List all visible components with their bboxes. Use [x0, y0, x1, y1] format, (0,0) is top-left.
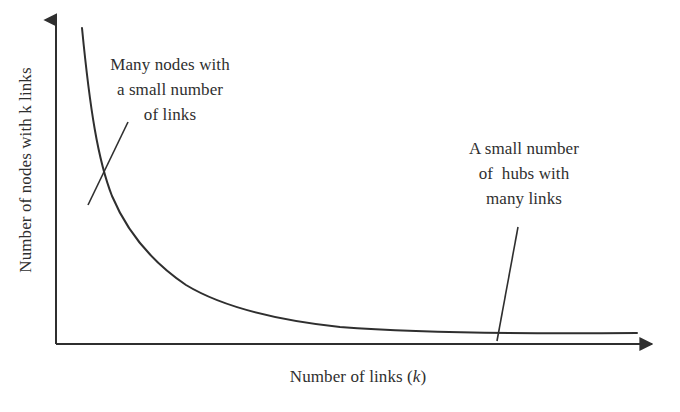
x-axis-label-text: Number of links ( [290, 367, 413, 386]
y-axis-label: Number of nodes with k links [16, 20, 36, 320]
x-axis-label: Number of links (k) [258, 367, 458, 387]
annotation-few-hubs: A small number of hubs with many links [424, 136, 624, 211]
leader-line-many-nodes [88, 122, 128, 205]
figure-scale-free-degree-distribution: Many nodes with a small number of links … [0, 0, 680, 412]
x-axis-label-tail: ) [420, 367, 426, 386]
annotation-many-nodes: Many nodes with a small number of links [70, 52, 270, 127]
leader-line-few-hubs [497, 227, 518, 341]
